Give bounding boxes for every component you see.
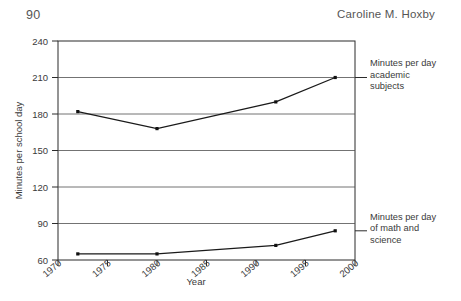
page-header: 90 Caroline M. Hoxby [0,8,461,28]
data-point-math-1972 [76,252,79,255]
grid-lines [58,78,355,224]
annotation-academic-subjects: Minutes per day academic subjects [370,58,436,91]
annotation-math-line3: science [370,235,402,245]
chart-canvas: 240 210 180 150 120 90 60 Minutes per sc… [0,28,461,301]
y-tick-label-240: 240 [32,36,48,47]
data-point-academic-1998 [334,76,337,79]
y-tick-labels: 240 210 180 150 120 90 60 [32,36,48,266]
x-tick-label-1980: 1980 [139,257,162,279]
annotation-academic-line1: Minutes per day [370,58,436,68]
annotation-math-line1: Minutes per day [370,212,436,222]
y-axis-label: Minutes per school day [13,101,24,199]
annotation-math-line2: of math and [370,223,419,233]
y-tick-label-150: 150 [32,145,48,156]
annotation-academic-line2: academic [370,70,410,80]
series-line-academic [78,78,335,129]
series-academic-subjects [76,76,337,130]
data-point-academic-1980 [155,127,158,130]
y-tick-label-60: 60 [37,255,48,266]
series-line-math-science [78,231,335,254]
x-tick-label-2000: 2000 [337,257,360,279]
data-point-math-1998 [334,229,337,232]
annotation-academic-line3: subjects [370,81,404,91]
x-tick-label-1995: 1995 [288,257,311,279]
series-math-science [76,229,337,255]
data-point-academic-1972 [76,110,79,113]
y-tick-label-90: 90 [37,218,48,229]
figure-line-chart: 240 210 180 150 120 90 60 Minutes per sc… [0,28,461,301]
x-tick-label-1975: 1975 [90,257,113,279]
annotation-math-science: Minutes per day of math and science [370,212,436,245]
y-tick-label-120: 120 [32,182,48,193]
y-tick-label-180: 180 [32,109,48,120]
data-point-academic-1992 [274,100,277,103]
running-head: Caroline M. Hoxby [337,8,435,20]
page-number: 90 [26,8,40,22]
x-tick-label-1990: 1990 [238,257,261,279]
y-tick-marks [52,41,58,260]
y-tick-label-210: 210 [32,72,48,83]
data-point-math-1980 [155,252,158,255]
x-axis-label: Year [186,276,205,287]
data-point-math-1992 [274,244,277,247]
